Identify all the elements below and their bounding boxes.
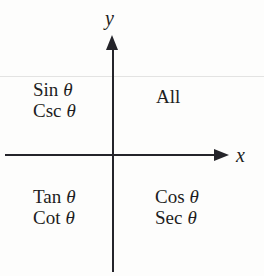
quadrant-4-function-1: Cos — [155, 186, 185, 207]
quadrant-2-function-2: Csc — [33, 100, 62, 121]
theta-symbol: θ — [58, 79, 72, 100]
quadrant-3-function-2: Cot — [33, 207, 60, 228]
x-axis-label: x — [236, 145, 245, 165]
quadrant-3-line-2: Cotθ — [33, 207, 76, 228]
quadrant-1-label-group: All — [156, 86, 180, 107]
x-axis-arrowhead-icon — [214, 149, 229, 161]
quadrant-2-line-2: Cscθ — [33, 100, 76, 121]
y-axis-arrowhead-icon — [106, 35, 118, 50]
theta-symbol: θ — [62, 100, 76, 121]
quadrant-1-line-1: All — [156, 86, 180, 107]
quadrant-4-function-2: Sec — [155, 207, 182, 228]
quadrant-2-function-1: Sin — [33, 79, 58, 100]
quadrant-2-line-1: Sinθ — [33, 79, 76, 100]
quadrant-3-line-1: Tanθ — [33, 186, 76, 207]
quadrant-2-label-group: Sinθ Cscθ — [33, 79, 76, 121]
quadrant-4-line-1: Cosθ — [155, 186, 199, 207]
theta-symbol: θ — [185, 186, 199, 207]
theta-symbol: θ — [61, 186, 75, 207]
trig-quadrant-diagram: x y Sinθ Cscθ All Tanθ Cotθ Cosθ Secθ — [0, 0, 264, 276]
y-axis-line — [112, 46, 114, 272]
quadrant-3-label-group: Tanθ Cotθ — [33, 186, 76, 228]
y-axis-label: y — [105, 8, 114, 28]
scan-artifact-line — [0, 76, 264, 77]
quadrant-3-function-1: Tan — [33, 186, 61, 207]
theta-symbol: θ — [182, 207, 196, 228]
theta-symbol: θ — [60, 207, 74, 228]
quadrant-4-label-group: Cosθ Secθ — [155, 186, 199, 228]
quadrant-4-line-2: Secθ — [155, 207, 199, 228]
